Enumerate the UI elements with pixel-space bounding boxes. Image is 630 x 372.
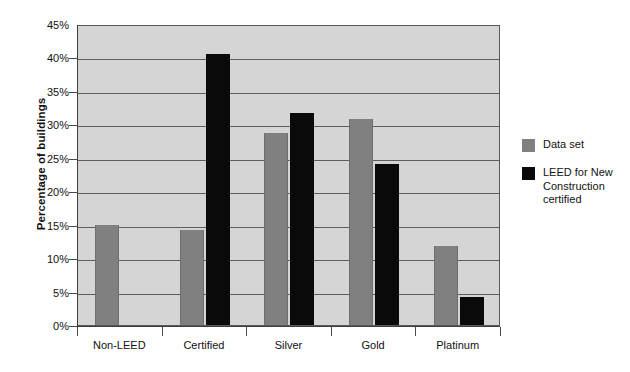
legend-label-leed: LEED for New Construction certified xyxy=(543,166,626,207)
y-tick-label: 15% xyxy=(9,220,69,232)
x-axis-divider xyxy=(77,327,78,336)
legend-item-leed: LEED for New Construction certified xyxy=(522,166,626,207)
y-axis-spine xyxy=(77,25,78,336)
y-tick-label: 45% xyxy=(9,19,69,31)
bar-dataset xyxy=(264,133,288,325)
bar-group xyxy=(332,26,417,325)
y-tick-mark xyxy=(69,192,77,193)
y-tick-mark xyxy=(69,259,77,260)
legend-swatch-dataset xyxy=(522,139,535,152)
bar-group xyxy=(163,26,248,325)
y-tick-label: 40% xyxy=(9,52,69,64)
y-tick-label: 25% xyxy=(9,153,69,165)
y-tick-label: 20% xyxy=(9,186,69,198)
x-axis-divider xyxy=(331,327,332,336)
legend-label-dataset: Data set xyxy=(543,138,584,152)
y-tick-mark xyxy=(69,293,77,294)
y-tick-label: 30% xyxy=(9,119,69,131)
bar-leed xyxy=(290,113,314,325)
y-tick-mark xyxy=(69,58,77,59)
x-axis-divider xyxy=(500,327,501,336)
y-tick-label: 35% xyxy=(9,86,69,98)
y-tick-mark xyxy=(69,159,77,160)
x-axis-divider xyxy=(162,327,163,336)
bar-group xyxy=(78,26,163,325)
legend-swatch-leed xyxy=(522,167,535,180)
bar-dataset xyxy=(180,230,204,325)
plot-area xyxy=(77,25,500,326)
x-tick-label: Platinum xyxy=(403,339,513,351)
bar-group xyxy=(247,26,332,325)
bar-chart: Percentage of buildings 0%5%10%15%20%25%… xyxy=(0,0,630,372)
y-tick-mark xyxy=(69,326,77,327)
bar-dataset xyxy=(349,119,373,325)
chart-legend: Data set LEED for New Construction certi… xyxy=(522,138,626,221)
x-axis-line xyxy=(77,326,500,327)
y-tick-mark xyxy=(69,226,77,227)
bar-dataset xyxy=(95,225,119,325)
y-tick-mark xyxy=(69,92,77,93)
y-tick-label: 5% xyxy=(9,287,69,299)
y-tick-mark xyxy=(69,125,77,126)
bar-dataset xyxy=(434,246,458,325)
x-axis-divider xyxy=(415,327,416,336)
bar-leed xyxy=(206,54,230,325)
bar-leed xyxy=(460,297,484,325)
y-tick-label: 0% xyxy=(9,320,69,332)
legend-item-dataset: Data set xyxy=(522,138,626,152)
y-tick-label: 10% xyxy=(9,253,69,265)
bar-group xyxy=(416,26,501,325)
x-axis-divider xyxy=(246,327,247,336)
bar-leed xyxy=(375,164,399,325)
